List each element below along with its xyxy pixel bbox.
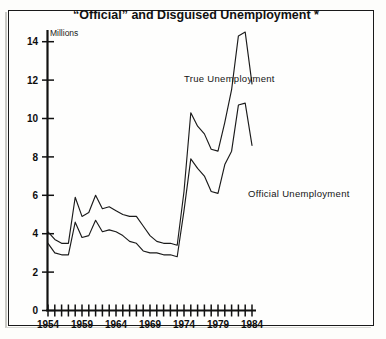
- y-axis-tick-label: 10: [27, 113, 39, 124]
- y-axis-tick-label: 2: [32, 267, 38, 278]
- y-axis-tick-label: 14: [27, 36, 39, 47]
- y-axis-tick-label: 8: [32, 152, 38, 163]
- series-label-official-unemployment: Official Unemployment: [248, 188, 350, 199]
- x-axis-tick-label: 1969: [139, 319, 162, 330]
- chart-figure: “Official” and Disguised Unemployment * …: [0, 0, 386, 339]
- x-axis-tick-label: 1984: [241, 319, 264, 330]
- x-axis-tick-label: 1974: [173, 319, 196, 330]
- x-axis-tick-label: 1954: [37, 319, 60, 330]
- y-axis-tick-label: 12: [27, 75, 39, 86]
- x-axis: 1954195919641969197419791984: [37, 305, 264, 331]
- chart-series-group: [48, 32, 252, 257]
- x-axis-tick-label: 1964: [105, 319, 128, 330]
- series-label-true-unemployment: True Unemployment: [184, 73, 275, 84]
- y-axis: 02468101214: [27, 30, 54, 316]
- y-axis-unit-label: Millions: [50, 28, 78, 38]
- series-line-official-unemployment: [48, 103, 252, 257]
- chart-title: “Official” and Disguised Unemployment *: [73, 8, 319, 22]
- y-axis-tick-label: 4: [32, 228, 38, 239]
- series-line-true-unemployment: [48, 32, 252, 245]
- y-axis-tick-label: 0: [32, 305, 38, 316]
- x-axis-tick-labels: 1954195919641969197419791984: [37, 319, 264, 330]
- chart-plot: “Official” and Disguised Unemployment * …: [0, 0, 386, 339]
- y-axis-tick-label: 6: [32, 190, 38, 201]
- y-axis-ticks: 02468101214: [27, 36, 54, 316]
- x-axis-tick-label: 1979: [207, 319, 230, 330]
- x-axis-tick-label: 1959: [71, 319, 94, 330]
